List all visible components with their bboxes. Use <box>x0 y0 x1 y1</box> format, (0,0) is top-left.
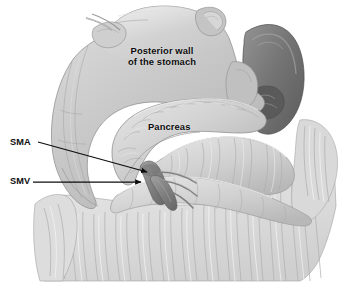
label-smv: SMV <box>10 176 30 187</box>
label-posterior-wall-line2: of the stomach <box>128 56 196 67</box>
label-posterior-wall-line1: Posterior wall <box>128 45 196 56</box>
anatomical-figure: Posterior wall of the stomach Pancreas S… <box>0 0 340 283</box>
anatomy-illustration-canvas <box>0 0 340 283</box>
label-posterior-wall-of-stomach: Posterior wall of the stomach <box>128 45 196 68</box>
label-pancreas: Pancreas <box>148 121 191 132</box>
label-sma: SMA <box>10 137 31 148</box>
